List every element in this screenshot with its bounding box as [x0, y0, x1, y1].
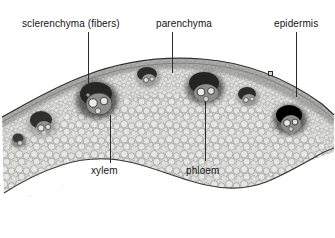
leader-line-xylem [110, 115, 111, 163]
label-parenchyma: parenchyma [156, 18, 212, 30]
leader-line-parenchyma [172, 32, 173, 73]
bundle-5 [236, 87, 260, 107]
label-sclerenchyma: sclerenchyma (fibers) [22, 18, 120, 30]
labeled-micrograph-figure: sclerenchyma (fibers) parenchyma epiderm… [0, 0, 335, 238]
label-xylem: xylem [91, 165, 118, 177]
bundle-1 [27, 111, 57, 137]
bundle-4 [186, 72, 224, 104]
label-phloem: phloem [186, 165, 219, 177]
leader-line-phloem [205, 101, 206, 161]
bundle-6 [273, 105, 307, 135]
surface-feature [268, 71, 273, 76]
label-epidermis: epidermis [274, 18, 318, 30]
stem-cross-section-micrograph [0, 0, 335, 238]
bundle-2 [76, 81, 118, 119]
leader-line-epidermis [296, 32, 297, 97]
leader-line-sclerenchyma [88, 32, 89, 88]
bundle-3 [135, 66, 161, 88]
